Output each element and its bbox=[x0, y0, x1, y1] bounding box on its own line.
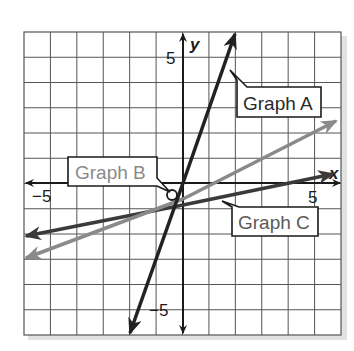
frame-shadow-bottom bbox=[28, 335, 347, 340]
callout-graph-b-label: Graph B bbox=[75, 162, 146, 183]
x-tick-label-neg5: −5 bbox=[32, 187, 51, 206]
graph-b-pointer-circle bbox=[167, 190, 177, 200]
callout-graph-a-label: Graph A bbox=[243, 93, 313, 114]
y-axis-label: y bbox=[189, 35, 201, 54]
callout-graph-c-label: Graph C bbox=[238, 212, 310, 233]
y-tick-label-neg5: −5 bbox=[149, 301, 168, 320]
y-tick-label-5: 5 bbox=[166, 49, 175, 68]
frame-shadow-right bbox=[341, 36, 347, 339]
coordinate-plane: 5 −5 −5 5 y x Graph B Graph A Graph C bbox=[0, 0, 354, 351]
x-tick-label-5: 5 bbox=[308, 188, 317, 207]
callout-graph-c: Graph C bbox=[222, 201, 318, 236]
callout-graph-a: Graph A bbox=[230, 70, 321, 117]
callout-graph-b: Graph B bbox=[68, 157, 177, 200]
